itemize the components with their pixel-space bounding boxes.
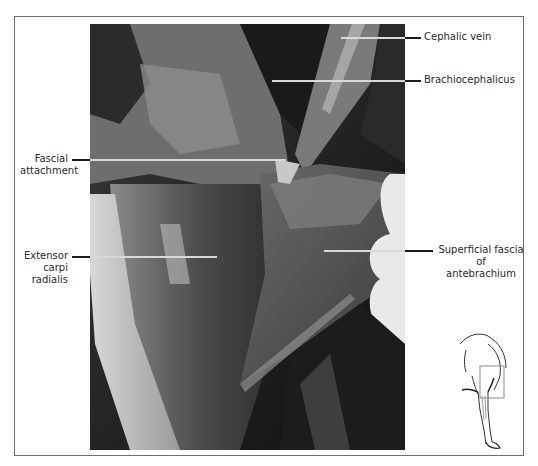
orientation-inset (458, 330, 528, 452)
extensor-carpi-radialis-leader-inner (90, 256, 217, 258)
superficial-fascia-leader (405, 250, 433, 252)
label-extensor-carpi-radialis-line1: Extensor (8, 250, 68, 262)
label-extensor-carpi-radialis: Extensor carpi radialis (8, 250, 68, 286)
label-extensor-carpi-radialis-line2: carpi radialis (8, 262, 68, 286)
superficial-fascia-leader-inner (324, 250, 405, 252)
label-cephalic-vein: Cephalic vein (424, 31, 491, 43)
cephalic-vein-leader-inner (341, 37, 405, 39)
fascial-attachment-leader-inner (90, 159, 286, 161)
dissection-photo-shapes (90, 24, 405, 450)
horse-forelimb-drawing-icon (458, 330, 528, 452)
label-superficial-fascia-line2: antebrachium (433, 268, 529, 280)
label-brachiocephalicus-text: Brachiocephalicus (424, 74, 515, 85)
label-superficial-fascia-line1: Superficial fascia of (433, 244, 529, 268)
brachiocephalicus-leader-inner (272, 80, 405, 82)
label-fascial-attachment: Fascial attachment (20, 153, 68, 177)
extensor-carpi-radialis-leader (72, 256, 90, 258)
label-superficial-fascia: Superficial fascia of antebrachium (433, 244, 529, 280)
brachiocephalicus-leader (405, 80, 421, 82)
label-fascial-attachment-line1: Fascial (20, 153, 68, 165)
label-brachiocephalicus: Brachiocephalicus (424, 74, 515, 86)
label-fascial-attachment-line2: attachment (20, 165, 68, 177)
label-cephalic-vein-text: Cephalic vein (424, 31, 491, 42)
cephalic-vein-leader (405, 37, 421, 39)
dissection-photo (90, 24, 405, 450)
fascial-attachment-leader (72, 159, 90, 161)
